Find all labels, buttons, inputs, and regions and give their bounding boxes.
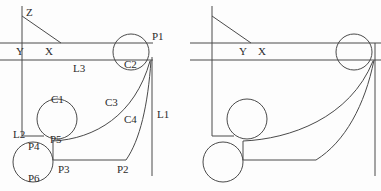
z-diagonal-line-right [212,16,251,43]
left-panel: Z Y X L3 P1 C2 C1 C3 C4 L1 L2 P5 P4 P3 P… [0,6,169,184]
label-X: X [45,45,53,57]
circle-C2-right [336,34,372,70]
curve-C3-right [243,61,373,141]
label-L1: L1 [157,108,169,120]
label-C4: C4 [124,113,137,125]
label-L2: L2 [13,128,25,140]
technical-diagram-figure: Z Y X L3 P1 C2 C1 C3 C4 L1 L2 P5 P4 P3 P… [0,0,381,191]
label-C2: C2 [124,58,137,70]
label-P3: P3 [58,163,70,175]
label-P2: P2 [117,163,129,175]
label-P1: P1 [152,30,164,42]
label-X-right: X [258,45,266,57]
circle-C1-right [227,99,267,139]
label-C1: C1 [51,93,64,105]
label-Y-right: Y [239,45,247,57]
label-P4: P4 [28,140,40,152]
label-Y: Y [16,45,24,57]
right-panel: Y X [190,6,381,182]
z-diagonal-line [22,16,61,43]
label-L3: L3 [73,62,86,74]
diagram-canvas: Z Y X L3 P1 C2 C1 C3 C4 L1 L2 P5 P4 P3 P… [0,0,381,191]
label-Z: Z [26,6,33,18]
curve-C4-right [316,60,374,160]
label-P5: P5 [50,133,62,145]
curve-C4 [126,60,151,160]
circle-C6-right [203,142,243,182]
label-P6: P6 [28,172,40,184]
curve-C3 [53,61,150,141]
label-C3: C3 [105,96,118,108]
